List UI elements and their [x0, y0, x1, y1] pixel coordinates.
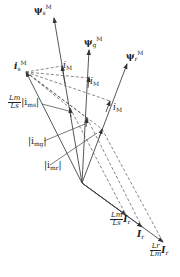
lm-ls-ir-label: LmLsIr — [110, 212, 130, 227]
lr-lm-ir-label: LrLmIr — [150, 243, 168, 258]
is-label: isM — [14, 60, 27, 72]
psi-g-vector — [82, 50, 89, 183]
img-marker — [86, 118, 87, 127]
imr-label: |imr| — [44, 161, 62, 171]
psi-r-label: ψrM — [126, 50, 144, 62]
im-label-3: iM — [113, 103, 122, 113]
im-label-2: iM — [90, 77, 99, 87]
psi-g-label: ψgM — [84, 36, 102, 48]
imr-marker — [99, 129, 102, 138]
img-label: |img| — [28, 137, 47, 147]
psi-s-vector — [54, 18, 82, 183]
ims-label: LmLs|ims| — [8, 95, 39, 110]
ir-label: Ir — [137, 230, 144, 240]
psi-s-label: ψsM — [34, 4, 52, 16]
im-arrow-g — [88, 77, 89, 88]
im-label-1: iM — [63, 61, 72, 71]
